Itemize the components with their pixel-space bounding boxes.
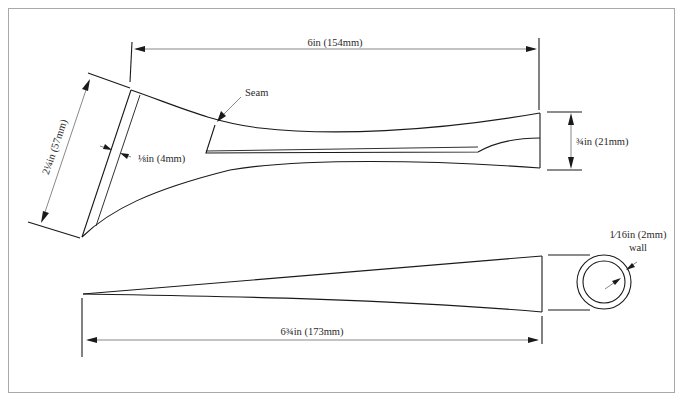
seam-inner-line (206, 147, 478, 151)
tube-side-view (83, 256, 542, 312)
horn-upper-edge (131, 90, 540, 132)
wall-thickness-label: 1⁄16in (2mm) (610, 229, 667, 241)
arrow-left-icon (120, 153, 129, 159)
tube-lower-edge (83, 294, 542, 312)
horn-lower-edge (82, 162, 540, 238)
extension-line-bottom (28, 222, 80, 238)
tube-cross-section: 1⁄16in (2mm) wall (548, 229, 667, 310)
mouth-diameter-label: 2¼in (57mm) (40, 117, 70, 176)
arrow-down-icon (41, 211, 49, 223)
wall-arrow-inner-icon (612, 278, 621, 285)
rim-width-label: ⅛in (4mm) (138, 153, 186, 165)
arrow-left-icon (134, 46, 145, 52)
extension-line-top (88, 73, 130, 88)
arrow-right-icon (103, 144, 112, 150)
seam-callout: Seam (217, 87, 268, 122)
arrow-left-icon (86, 337, 97, 343)
arrow-right-icon (528, 337, 539, 343)
arrow-down-icon (568, 157, 574, 169)
end-diameter-label: ¾in (21mm) (576, 136, 629, 148)
rim-inner-line (96, 95, 140, 226)
seam-label: Seam (245, 87, 268, 98)
dimension-rim-width: ⅛in (4mm) (100, 144, 186, 165)
arrow-up-icon (82, 79, 90, 91)
arrow-up-icon (568, 113, 574, 125)
outer-wall-circle (577, 255, 631, 309)
inner-wall-circle (583, 261, 625, 303)
length-label-top: 6in (154mm) (307, 37, 363, 49)
technical-diagram: 6in (154mm) 2¼in (57mm) ⅛in (4mm) Seam ¾… (0, 0, 683, 405)
tube-upper-edge (83, 256, 542, 294)
dimension-end-diameter: ¾in (21mm) (547, 112, 629, 170)
wall-word-label: wall (629, 242, 647, 253)
dimension-mouth-diameter: 2¼in (57mm) (28, 73, 130, 238)
length-label-bottom: 6¾in (173mm) (281, 326, 344, 338)
rim-outer-line (82, 90, 131, 237)
dimension-length-top: 6in (154mm) (130, 37, 539, 110)
extension-line-left (130, 42, 132, 82)
arrow-right-icon (526, 46, 537, 52)
